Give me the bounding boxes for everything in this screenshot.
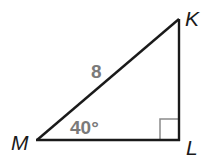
angle-M-label: 40° [70,117,99,138]
triangle-diagram: K L M 8 40° [0,0,208,163]
side-MK-hypotenuse [37,19,179,140]
vertex-label-L: L [186,136,198,159]
vertex-label-K: K [185,7,200,30]
vertex-label-M: M [11,131,29,154]
hypotenuse-length-label: 8 [91,61,102,82]
right-angle-marker [160,119,179,140]
